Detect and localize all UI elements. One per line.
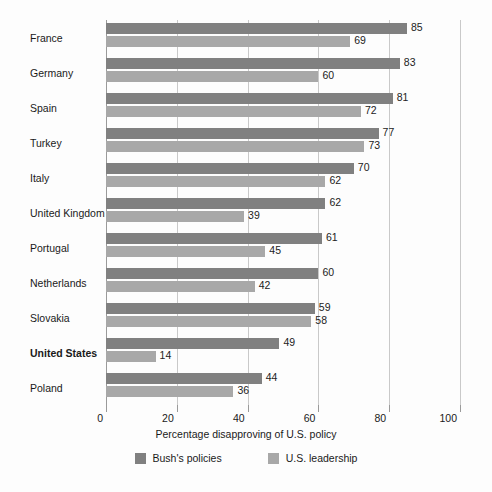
bar-row: 7773 bbox=[106, 125, 460, 158]
bar bbox=[106, 23, 407, 34]
tick-label-60: 60 bbox=[304, 412, 319, 425]
legend-label: Bush's policies bbox=[153, 452, 222, 464]
category-label-portugal: Portugal bbox=[30, 242, 69, 254]
bar bbox=[106, 36, 350, 47]
tick-mark-100 bbox=[460, 405, 461, 412]
bar bbox=[106, 268, 318, 279]
bar-value-label: 60 bbox=[322, 69, 334, 82]
bar-value-label: 49 bbox=[283, 336, 295, 349]
bar-row: 4914 bbox=[106, 335, 460, 368]
bar bbox=[106, 58, 400, 69]
bar-row: 8569 bbox=[106, 20, 460, 53]
bar-value-label: 42 bbox=[259, 279, 271, 292]
category-label-france: France bbox=[30, 32, 63, 44]
bar bbox=[106, 338, 279, 349]
tick-mark-80 bbox=[389, 405, 390, 412]
tick-label-0: 0 bbox=[97, 412, 106, 425]
bar-value-label: 14 bbox=[160, 349, 172, 362]
bar-row: 8360 bbox=[106, 55, 460, 88]
category-label-italy: Italy bbox=[30, 172, 49, 184]
x-axis: 020406080100 bbox=[106, 405, 460, 427]
bar-value-label: 72 bbox=[365, 104, 377, 117]
category-label-united-kingdom: United Kingdom bbox=[30, 207, 105, 219]
chart-figure: FranceGermanySpainTurkeyItalyUnited King… bbox=[0, 0, 492, 492]
category-label-netherlands: Netherlands bbox=[30, 277, 87, 289]
bar bbox=[106, 233, 322, 244]
bar-row: 4436 bbox=[106, 370, 460, 403]
category-label-turkey: Turkey bbox=[30, 137, 62, 149]
tick-label-20: 20 bbox=[162, 412, 177, 425]
bar-value-label: 70 bbox=[358, 161, 370, 174]
category-axis-labels: FranceGermanySpainTurkeyItalyUnited King… bbox=[0, 20, 100, 405]
bar-row: 6239 bbox=[106, 195, 460, 228]
bar-value-label: 60 bbox=[322, 266, 334, 279]
tick-mark-40 bbox=[248, 405, 249, 412]
bar-value-label: 81 bbox=[397, 91, 409, 104]
tick-label-100: 100 bbox=[439, 412, 460, 425]
bar-row: 6145 bbox=[106, 230, 460, 263]
bar bbox=[106, 141, 364, 152]
bar bbox=[106, 71, 318, 82]
plot-area: 8569836081727773706262396145604259584914… bbox=[106, 20, 460, 405]
tick-label-80: 80 bbox=[375, 412, 390, 425]
bar-row: 7062 bbox=[106, 160, 460, 193]
x-axis-title: Percentage disapproving of U.S. policy bbox=[0, 428, 492, 440]
bar-rows: 8569836081727773706262396145604259584914… bbox=[106, 20, 460, 405]
bar-value-label: 62 bbox=[329, 196, 341, 209]
category-label-germany: Germany bbox=[30, 67, 73, 79]
bar-value-label: 44 bbox=[266, 371, 278, 384]
legend-item-us-leadership[interactable]: U.S. leadership bbox=[268, 452, 358, 464]
bar bbox=[106, 386, 233, 397]
bar bbox=[106, 198, 325, 209]
bar-row: 5958 bbox=[106, 300, 460, 333]
bar-value-label: 59 bbox=[319, 301, 331, 314]
tick-mark-60 bbox=[318, 405, 319, 412]
category-label-slovakia: Slovakia bbox=[30, 312, 70, 324]
gridline-100 bbox=[460, 20, 461, 405]
bar bbox=[106, 281, 255, 292]
bar-value-label: 83 bbox=[404, 56, 416, 69]
tick-mark-0 bbox=[106, 405, 107, 412]
bar bbox=[106, 373, 262, 384]
bar bbox=[106, 316, 311, 327]
bar bbox=[106, 303, 315, 314]
bar-value-label: 73 bbox=[368, 139, 380, 152]
category-label-united-states: United States bbox=[30, 347, 97, 359]
bar bbox=[106, 176, 325, 187]
tick-mark-20 bbox=[177, 405, 178, 412]
bar bbox=[106, 128, 379, 139]
tick-label-40: 40 bbox=[233, 412, 248, 425]
bar-value-label: 39 bbox=[248, 209, 260, 222]
bar-value-label: 36 bbox=[237, 384, 249, 397]
bar bbox=[106, 246, 265, 257]
category-label-poland: Poland bbox=[30, 382, 63, 394]
legend-label: U.S. leadership bbox=[286, 452, 358, 464]
bar bbox=[106, 351, 156, 362]
category-label-spain: Spain bbox=[30, 102, 57, 114]
bar-row: 8172 bbox=[106, 90, 460, 123]
legend-item-bush-policies[interactable]: Bush's policies bbox=[135, 452, 222, 464]
bar bbox=[106, 106, 361, 117]
legend: Bush's policiesU.S. leadership bbox=[0, 452, 492, 464]
legend-swatch-icon bbox=[268, 453, 279, 464]
bar-value-label: 61 bbox=[326, 231, 338, 244]
bar-value-label: 45 bbox=[269, 244, 281, 257]
bar-value-label: 69 bbox=[354, 34, 366, 47]
bar bbox=[106, 93, 393, 104]
bar-value-label: 62 bbox=[329, 174, 341, 187]
legend-swatch-icon bbox=[135, 453, 146, 464]
bar-value-label: 77 bbox=[383, 126, 395, 139]
bar-row: 6042 bbox=[106, 265, 460, 298]
bar bbox=[106, 163, 354, 174]
bar bbox=[106, 211, 244, 222]
bar-value-label: 85 bbox=[411, 21, 423, 34]
bar-value-label: 58 bbox=[315, 314, 327, 327]
